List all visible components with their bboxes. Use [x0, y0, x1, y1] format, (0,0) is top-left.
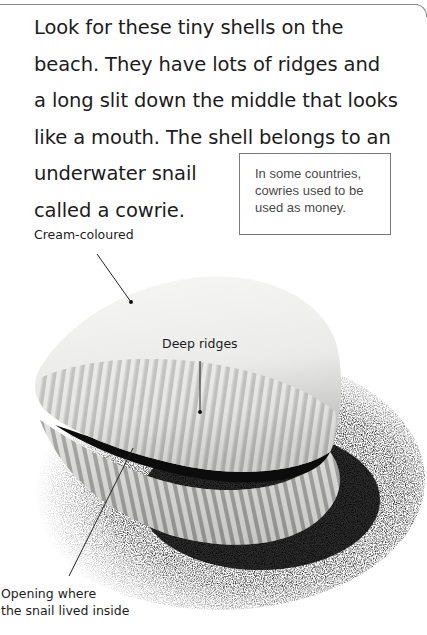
label-opening-line1: Opening where: [1, 586, 96, 602]
cowrie-shell-illustration: [0, 230, 427, 635]
label-opening-line2: the snail lived inside: [1, 603, 129, 619]
fact-line: In some countries,: [255, 165, 390, 182]
label-deep-ridges: Deep ridges: [162, 336, 238, 352]
body-line: Look for these tiny shells on the: [34, 10, 419, 47]
fact-line: used as money.: [255, 199, 390, 216]
body-line: like a mouth. The shell belongs to an: [34, 120, 419, 157]
fact-text: In some countries, cowries used to be us…: [255, 165, 390, 216]
fact-box: In some countries, cowries used to be us…: [239, 153, 391, 235]
leader-line-cream: [97, 254, 131, 302]
body-line: a long slit down the middle that looks: [34, 83, 419, 120]
body-line: beach. They have lots of ridges and: [34, 47, 419, 84]
page-top-rule: [0, 4, 418, 5]
label-cream-coloured: Cream-coloured: [34, 227, 134, 243]
fact-line: cowries used to be: [255, 182, 390, 199]
